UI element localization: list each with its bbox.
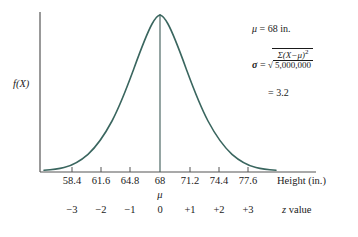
radicand: Σ(X−μ)2 5,000,000	[272, 48, 313, 70]
mu-symbol: μ	[252, 23, 257, 34]
z-axis-label-text: value	[286, 204, 311, 215]
x-tick-label: 64.8	[121, 176, 139, 187]
z-tick-label: +1	[184, 205, 195, 216]
annotation-mean: μ = 68 in.	[252, 24, 290, 34]
x-axis-label: Height (in.)	[277, 176, 326, 187]
x-tick-label: 68	[155, 176, 166, 187]
annotation-sigma-formula: σ = √ Σ(X−μ)2 5,000,000	[252, 48, 313, 70]
mu-value: 68 in.	[268, 23, 291, 34]
mu-equals-sign: =	[260, 23, 266, 34]
distribution-plot-svg	[0, 0, 358, 237]
x-tick-label: 61.6	[92, 176, 110, 187]
sigma-result-equals-sign: =	[268, 87, 274, 98]
annotation-sigma-result: = 3.2	[268, 88, 289, 98]
mean-mu-marker: μ	[157, 190, 162, 201]
sigma-numerator-exponent: 2	[305, 48, 309, 56]
z-tick-label: +2	[213, 205, 224, 216]
x-tick-label: 74.4	[210, 176, 228, 187]
sigma-symbol: σ	[252, 59, 257, 70]
sigma-numerator-text: Σ(X−μ)	[278, 50, 305, 60]
z-tick-label: −3	[66, 205, 77, 216]
y-axis-label: f(X)	[13, 79, 29, 90]
sigma-equals-sign: =	[260, 59, 266, 70]
z-tick-label: −2	[95, 205, 106, 216]
z-tick-label: −1	[124, 205, 135, 216]
z-tick-label: +3	[242, 205, 253, 216]
z-tick-label: 0	[157, 205, 162, 216]
z-axis-label: z value	[282, 205, 311, 216]
sigma-result-value: 3.2	[276, 87, 289, 98]
sigma-denominator: 5,000,000	[273, 61, 313, 70]
normal-distribution-figure: f(X) 58.4 61.6 64.8 68 71.2 74.4 77.6 He…	[0, 0, 358, 237]
square-root-group: √ Σ(X−μ)2 5,000,000	[268, 48, 313, 70]
x-tick-label: 58.4	[63, 176, 81, 187]
sigma-fraction: Σ(X−μ)2 5,000,000	[273, 49, 313, 70]
x-tick-label: 77.6	[239, 176, 257, 187]
x-tick-label: 71.2	[181, 176, 199, 187]
